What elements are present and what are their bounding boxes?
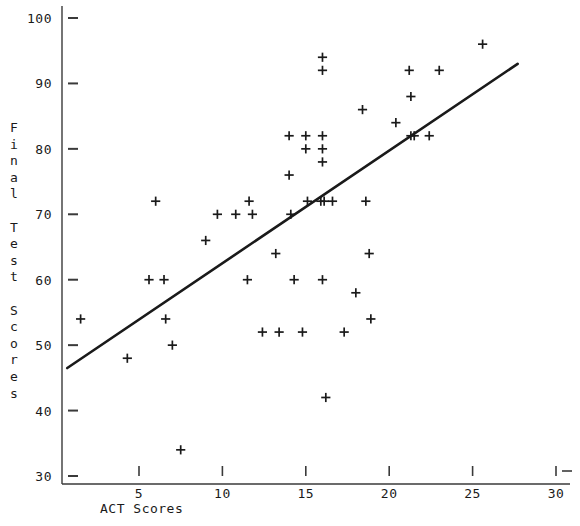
y-axis-title-char: c bbox=[6, 319, 22, 336]
data-point-marker bbox=[318, 66, 327, 75]
data-point-marker bbox=[286, 210, 295, 219]
y-axis-title-char: e bbox=[6, 236, 22, 253]
data-point-marker bbox=[285, 131, 294, 140]
data-point-marker bbox=[275, 327, 284, 336]
y-axis-title-char: T bbox=[6, 220, 22, 237]
y-axis-title-char: s bbox=[6, 386, 22, 403]
data-point-marker bbox=[301, 131, 310, 140]
data-point-marker bbox=[406, 92, 415, 101]
y-axis-title-char: i bbox=[6, 137, 22, 154]
y-axis-title-char: S bbox=[6, 303, 22, 320]
x-tick-label: 5 bbox=[135, 486, 143, 501]
data-point-marker bbox=[290, 275, 299, 284]
x-tick-label: 30 bbox=[548, 486, 565, 501]
axes bbox=[62, 6, 570, 484]
y-axis-title-char: o bbox=[6, 336, 22, 353]
y-axis-title-char: r bbox=[6, 352, 22, 369]
data-point-marker bbox=[244, 197, 253, 206]
x-tick-label: 20 bbox=[381, 486, 398, 501]
y-axis-title-char: e bbox=[6, 369, 22, 386]
data-point-marker bbox=[123, 354, 132, 363]
data-point-marker bbox=[318, 144, 327, 153]
data-point-marker bbox=[318, 131, 327, 140]
y-axis-title-char bbox=[6, 203, 22, 220]
y-tick-label: 90 bbox=[0, 76, 52, 91]
y-axis-title-char: F bbox=[6, 120, 22, 137]
data-point-marker bbox=[176, 445, 185, 454]
y-tick-label: 40 bbox=[0, 403, 52, 418]
data-point-marker bbox=[248, 210, 257, 219]
y-axis-title-char: n bbox=[6, 153, 22, 170]
data-point-marker bbox=[258, 327, 267, 336]
y-axis-title-char bbox=[6, 286, 22, 303]
data-point-marker bbox=[76, 314, 85, 323]
data-point-marker bbox=[478, 40, 487, 49]
data-point-marker bbox=[151, 197, 160, 206]
data-point-marker bbox=[231, 210, 240, 219]
y-axis-title-char: s bbox=[6, 253, 22, 270]
plot-area bbox=[0, 0, 580, 526]
data-point-marker bbox=[301, 144, 310, 153]
y-axis-title-char: t bbox=[6, 269, 22, 286]
y-tick-label: 30 bbox=[0, 469, 52, 484]
data-point-marker bbox=[271, 249, 280, 258]
data-point-marker bbox=[318, 53, 327, 62]
data-point-marker bbox=[285, 170, 294, 179]
data-point-marker bbox=[365, 249, 374, 258]
data-point-marker bbox=[391, 118, 400, 127]
data-point-marker bbox=[318, 157, 327, 166]
data-point-marker bbox=[351, 288, 360, 297]
y-axis-title-char: l bbox=[6, 186, 22, 203]
data-point-marker bbox=[405, 66, 414, 75]
data-point-marker bbox=[425, 131, 434, 140]
x-axis-title: ACT Scores bbox=[100, 501, 183, 516]
data-point-marker bbox=[321, 393, 330, 402]
data-points bbox=[76, 40, 487, 455]
x-tick-label: 15 bbox=[297, 486, 314, 501]
data-point-marker bbox=[358, 105, 367, 114]
data-point-marker bbox=[328, 197, 337, 206]
data-point-marker bbox=[144, 275, 153, 284]
data-point-marker bbox=[243, 275, 252, 284]
data-point-marker bbox=[435, 66, 444, 75]
regression-trendline bbox=[67, 64, 517, 368]
data-point-marker bbox=[213, 210, 222, 219]
y-axis-title-char: a bbox=[6, 170, 22, 187]
data-point-marker bbox=[168, 341, 177, 350]
scatter-chart: 30405060708090100 51015202530 Final Test… bbox=[0, 0, 580, 526]
data-point-marker bbox=[340, 327, 349, 336]
data-point-marker bbox=[361, 197, 370, 206]
axis-ticks bbox=[68, 18, 572, 476]
data-point-marker bbox=[298, 327, 307, 336]
y-tick-label: 100 bbox=[0, 11, 52, 26]
data-point-marker bbox=[161, 314, 170, 323]
y-axis-title: Final Test Scores bbox=[6, 120, 22, 402]
data-point-marker bbox=[159, 275, 168, 284]
data-point-marker bbox=[366, 314, 375, 323]
x-tick-label: 25 bbox=[464, 486, 481, 501]
data-point-marker bbox=[201, 236, 210, 245]
data-point-marker bbox=[318, 275, 327, 284]
x-tick-label: 10 bbox=[214, 486, 231, 501]
